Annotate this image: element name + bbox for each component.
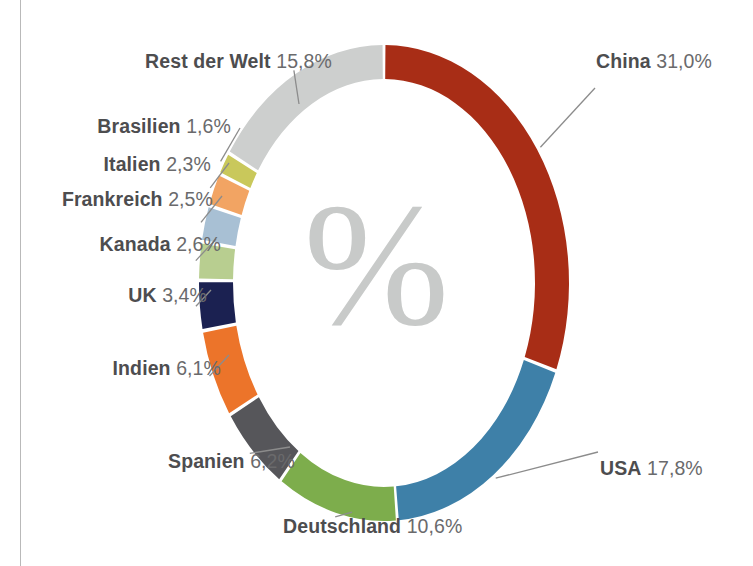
slice-label-indien: Indien 6,1% [113, 359, 221, 379]
slice-name-rest-der-welt: Rest der Welt [145, 50, 271, 72]
donut-slice-usa[interactable] [396, 360, 555, 520]
slice-value-indien: 6,1% [176, 357, 221, 379]
slice-label-brasilien: Brasilien 1,6% [97, 117, 231, 137]
slice-name-brasilien: Brasilien [97, 115, 180, 137]
slice-label-italien: Italien 2,3% [104, 155, 211, 175]
donut-slice-deutschland[interactable] [282, 453, 396, 521]
slice-value-italien: 2,3% [166, 153, 211, 175]
slice-label-spanien: Spanien 6,2% [168, 452, 295, 472]
slice-value-usa: 17,8% [647, 457, 703, 479]
slice-name-indien: Indien [113, 357, 171, 379]
slice-value-brasilien: 1,6% [186, 115, 231, 137]
slice-label-china: China 31,0% [596, 52, 712, 72]
slice-name-italien: Italien [104, 153, 161, 175]
donut-chart-figure: % China 31,0% USA 17,8% Deutschland 10,6… [0, 0, 753, 566]
slice-value-china: 31,0% [656, 50, 712, 72]
leader-line-china [540, 88, 595, 147]
slice-name-china: China [596, 50, 651, 72]
slice-value-deutschland: 10,6% [407, 515, 463, 537]
slice-name-usa: USA [600, 457, 641, 479]
slice-label-deutschland: Deutschland 10,6% [283, 517, 462, 537]
slice-value-kanada: 2,6% [176, 233, 221, 255]
slice-value-frankreich: 2,5% [168, 188, 213, 210]
slice-value-uk: 3,4% [162, 284, 207, 306]
slice-name-deutschland: Deutschland [283, 515, 401, 537]
slice-value-spanien: 6,2% [250, 450, 295, 472]
slice-name-frankreich: Frankreich [62, 188, 163, 210]
slice-label-uk: UK 3,4% [128, 286, 207, 306]
slice-label-kanada: Kanada 2,6% [100, 235, 221, 255]
slice-label-rest-der-welt: Rest der Welt 15,8% [145, 52, 332, 72]
slice-label-frankreich: Frankreich 2,5% [62, 190, 213, 210]
slice-name-spanien: Spanien [168, 450, 245, 472]
slice-name-kanada: Kanada [100, 233, 171, 255]
slice-label-usa: USA 17,8% [600, 459, 703, 479]
slice-value-rest-der-welt: 15,8% [276, 50, 332, 72]
slice-name-uk: UK [128, 284, 156, 306]
